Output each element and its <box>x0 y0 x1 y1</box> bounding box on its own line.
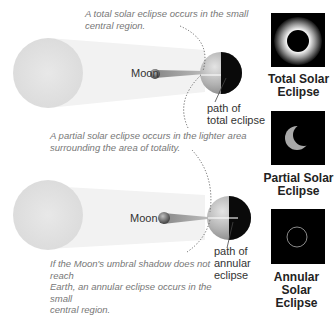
total-eclipse-photo <box>271 13 325 67</box>
total-eclipse-caption: A total solar eclipse occurs in the smal… <box>85 8 265 31</box>
total-eclipse-photo-title: Total Solar Eclipse <box>262 73 335 99</box>
label-line: path of <box>207 102 277 114</box>
annular-eclipse-caption: If the Moon's umbral shadow does not rea… <box>50 258 220 316</box>
title-line: Eclipse <box>262 185 335 198</box>
caption-line: A partial solar eclipse occurs in the li… <box>50 130 270 142</box>
moon-icon <box>158 212 170 224</box>
partial-eclipse-caption: A partial solar eclipse occurs in the li… <box>50 130 270 153</box>
caption-line: central region. <box>50 304 220 316</box>
title-line: Eclipse <box>262 86 335 99</box>
annular-eclipse-diagram <box>13 150 251 252</box>
caption-line: central region. <box>85 20 265 32</box>
partial-eclipse-photo <box>271 111 325 165</box>
partial-eclipse-photo-title: Partial Solar Eclipse <box>262 172 335 198</box>
caption-line: If the Moon's umbral shadow does not rea… <box>50 258 220 281</box>
label-line: annular <box>214 257 274 269</box>
moon-label: Moon <box>130 212 158 224</box>
sun-icon <box>13 38 83 108</box>
title-line: Eclipse <box>258 297 335 310</box>
moon-disk-icon <box>287 30 309 52</box>
label-line: total eclipse <box>207 114 277 126</box>
annular-eclipse-photo-title: Annular Solar Eclipse <box>258 271 335 310</box>
moon-label: Moon <box>131 67 159 79</box>
title-line: Annular Solar <box>258 271 335 297</box>
caption-line: A total solar eclipse occurs in the smal… <box>85 8 265 20</box>
path-of-total-eclipse-label: path of total eclipse <box>207 102 277 126</box>
annular-eclipse-photo <box>271 209 325 264</box>
caption-line: surrounding the area of totality. <box>50 142 270 154</box>
sun-icon <box>13 180 83 250</box>
crescent-sun-icon <box>271 111 325 165</box>
label-line: path of <box>214 245 274 257</box>
caption-line: Earth, an annular eclipse occurs in the … <box>50 281 220 304</box>
earth-night-side <box>221 52 242 94</box>
